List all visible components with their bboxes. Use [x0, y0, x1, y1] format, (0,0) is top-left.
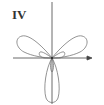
inner-lobe-right [52, 52, 65, 58]
x-axis-arrow-icon [87, 56, 92, 60]
polar-plot [0, 0, 104, 105]
axes [13, 2, 92, 104]
inner-lobe-left [39, 52, 52, 58]
origin [51, 57, 53, 59]
